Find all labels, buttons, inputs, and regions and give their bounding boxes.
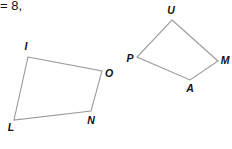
vertex-label-m: M [221, 54, 230, 66]
vertex-label-u: U [167, 4, 175, 16]
polygon-upam [137, 20, 218, 80]
vertex-label-i: I [25, 40, 29, 52]
shape-ilno: I O N L [8, 40, 113, 133]
quadrilateral-diagram: I O N L U M A P [0, 0, 232, 149]
polygon-ilno [14, 57, 102, 120]
vertex-label-l: L [8, 121, 14, 133]
vertex-label-a: A [185, 82, 194, 94]
shape-upam: U M A P [126, 4, 229, 94]
vertex-label-p: P [126, 52, 134, 64]
vertex-label-o: O [105, 67, 113, 79]
vertex-label-n: N [87, 114, 95, 126]
